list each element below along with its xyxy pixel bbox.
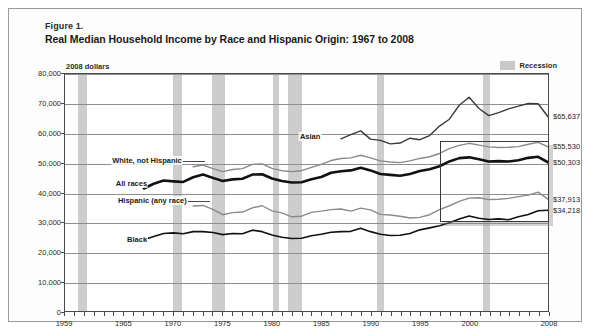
y-axis-tick-label: 40,000: [38, 188, 61, 197]
x-axis-tick-mark: [331, 312, 332, 316]
x-axis-tick-mark: [381, 312, 382, 316]
annotation-leader-line: [188, 201, 210, 202]
x-axis-tick-mark: [460, 312, 461, 316]
recession-swatch-icon: [500, 61, 515, 70]
x-axis-tick-mark: [183, 312, 184, 316]
x-axis-tick-mark: [401, 312, 402, 316]
y-axis-tick-label: 20,000: [38, 248, 61, 257]
y-axis-tick-mark: [61, 103, 65, 104]
x-axis-tick-label: 2000: [461, 319, 478, 328]
x-axis-tick-mark: [74, 312, 75, 316]
x-axis-tick-mark: [104, 312, 105, 316]
plot-wrapper: AsianWhite, not HispanicAll racesHispani…: [64, 73, 549, 312]
x-axis-tick-mark: [113, 312, 114, 316]
x-axis-tick-mark: [391, 312, 392, 316]
x-axis-tick-label: 1985: [313, 319, 330, 328]
annotation-leader-line: [183, 161, 205, 162]
x-axis-tick-mark: [292, 312, 293, 316]
x-axis-tick-mark: [430, 312, 431, 316]
series-annotation-hispanic: Hispanic (any race): [117, 196, 188, 205]
x-axis-tick-mark: [539, 312, 540, 316]
x-axis-tick-mark: [222, 312, 223, 316]
figure-title: Real Median Household Income by Race and…: [45, 33, 414, 45]
legend: Recession: [500, 61, 557, 70]
x-axis-tick-label: 1970: [165, 319, 182, 328]
y-axis-tick-mark: [61, 163, 65, 164]
y-axis-tick-labels: 010,00020,00030,00040,00050,00060,00070,…: [23, 73, 61, 312]
x-axis-tick-label: 1965: [115, 319, 132, 328]
x-axis-tick-mark: [262, 312, 263, 316]
y-axis-tick-label: 50,000: [38, 158, 61, 167]
x-axis-ticks: [64, 312, 550, 317]
end-value-label-asian: $65,637: [553, 111, 580, 120]
x-axis-tick-mark: [84, 312, 85, 316]
x-axis-tick-mark: [143, 312, 144, 316]
x-axis-tick-label: 2008: [541, 319, 558, 328]
legend-label-recession: Recession: [519, 61, 557, 70]
y-axis-tick-label: 10,000: [38, 278, 61, 287]
y-axis-tick-mark: [61, 282, 65, 283]
x-axis-tick-mark: [133, 312, 134, 316]
y-axis-tick-mark: [61, 133, 65, 134]
x-axis-tick-mark: [203, 312, 204, 316]
x-axis-tick-label: 1995: [412, 319, 429, 328]
x-axis-tick-mark: [123, 312, 124, 316]
y-axis-tick-mark: [61, 73, 65, 74]
series-line: [193, 142, 548, 171]
x-axis-tick-mark: [500, 312, 501, 316]
x-axis-tick-mark: [302, 312, 303, 316]
series-annotation-white-not-hispanic: White, not Hispanic: [111, 156, 183, 165]
end-value-label-black: $34,218: [553, 205, 580, 214]
y-axis-tick-label: 60,000: [38, 128, 61, 137]
x-axis-tick-mark: [440, 312, 441, 316]
x-axis-tick-label: 1980: [264, 319, 281, 328]
y-axis-tick-label: 30,000: [38, 218, 61, 227]
y-axis-tick-mark: [61, 312, 65, 313]
x-axis-tick-mark: [341, 312, 342, 316]
figure-frame: Figure 1. Real Median Household Income b…: [8, 8, 582, 322]
x-axis-tick-mark: [232, 312, 233, 316]
x-axis-tick-mark: [490, 312, 491, 316]
x-axis-tick-mark: [212, 312, 213, 316]
x-axis-tick-mark: [351, 312, 352, 316]
series-line: [144, 210, 548, 239]
x-axis-tick-mark: [371, 312, 372, 316]
y-axis-tick-label: 80,000: [38, 69, 61, 78]
series-annotation-asian: Asian: [299, 132, 321, 141]
x-axis-tick-label: 1959: [56, 319, 73, 328]
x-axis-tick-mark: [193, 312, 194, 316]
x-axis-tick-mark: [242, 312, 243, 316]
series-annotation-black: Black: [126, 235, 148, 244]
series-lines: [65, 74, 548, 312]
end-value-label-hispanic: $37,913: [553, 194, 580, 203]
y-axis-tick-label: 70,000: [38, 98, 61, 107]
x-axis-tick-mark: [163, 312, 164, 316]
y-axis-tick-mark: [61, 193, 65, 194]
x-axis-tick-labels: 1959196519701975198019851990199520002008: [64, 319, 550, 331]
plot-area: [64, 73, 549, 312]
x-axis-tick-mark: [153, 312, 154, 316]
x-axis-tick-label: 1990: [362, 319, 379, 328]
x-axis-tick-mark: [252, 312, 253, 316]
units-label: 2008 dollars: [66, 62, 109, 71]
x-axis-tick-mark: [450, 312, 451, 316]
x-axis-tick-mark: [420, 312, 421, 316]
x-axis-tick-mark: [311, 312, 312, 316]
x-axis-tick-mark: [529, 312, 530, 316]
x-axis-tick-mark: [361, 312, 362, 316]
series-annotation-all-races: All races: [115, 179, 148, 188]
y-axis-tick-mark: [61, 222, 65, 223]
x-axis-tick-mark: [94, 312, 95, 316]
x-axis-tick-mark: [480, 312, 481, 316]
series-line: [193, 192, 548, 218]
x-axis-tick-mark: [410, 312, 411, 316]
series-line: [341, 97, 548, 144]
x-axis-tick-mark: [509, 312, 510, 316]
x-axis-tick-mark: [321, 312, 322, 316]
end-value-label-all-races: $50,303: [553, 157, 580, 166]
x-axis-tick-label: 1975: [214, 319, 231, 328]
x-axis-tick-mark: [519, 312, 520, 316]
x-axis-tick-mark: [470, 312, 471, 316]
end-value-label-white-not-hispanic: $55,530: [553, 142, 580, 151]
x-axis-tick-mark: [549, 312, 550, 316]
